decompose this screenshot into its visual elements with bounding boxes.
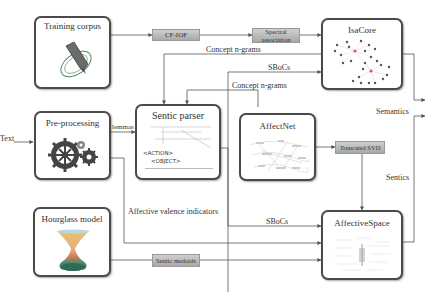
affectnet-title: AffectNet <box>241 121 314 131</box>
sentic-parser-title: Sentic parser <box>137 110 219 121</box>
preprocessing-box: Pre-processing <box>34 111 111 180</box>
edge-label-sentics: Sentics <box>386 173 409 182</box>
gears-icon <box>47 135 101 175</box>
truncated-svd-process: Truncated SVD <box>335 141 385 154</box>
vector-space-icon <box>331 234 395 274</box>
spectral-association-process: Spectral association <box>252 28 300 43</box>
edge-label-lemmas: lemmas <box>112 123 134 131</box>
pencil-orbit-icon <box>54 34 96 86</box>
cf-iof-process: CF-IOF <box>152 29 200 41</box>
edge-label-concept-ngrams-mid: Concept n-grams <box>232 81 287 90</box>
hourglass-model-box: Hourglass model <box>33 207 111 277</box>
training-corpus-title: Training corpus <box>36 21 109 31</box>
edge-label-affective-valence: Affective valence indicators <box>128 207 218 216</box>
cluster-graph-icon <box>331 39 395 87</box>
preprocessing-title: Pre-processing <box>36 118 109 128</box>
parse-tree-icon <box>141 124 217 148</box>
edge-label-semantics: Semantics <box>376 107 409 116</box>
training-corpus-box: Training corpus <box>34 16 111 89</box>
parse-underline <box>145 168 213 169</box>
edge-label-sbocs-bottom: SBoCs <box>266 217 288 226</box>
object-tag: <OBJECT> <box>151 158 181 164</box>
affectivespace-box: AffectiveSpace <box>321 210 403 280</box>
edge-label-text: Text <box>0 134 14 143</box>
isacore-box: IsaCore <box>321 18 403 90</box>
hourglass-model-title: Hourglass model <box>35 214 109 224</box>
hourglass-icon <box>55 229 91 273</box>
isacore-title: IsaCore <box>323 25 401 35</box>
affectivespace-title: AffectiveSpace <box>323 218 401 228</box>
edge-label-sbocs-top: SBoCs <box>268 63 290 72</box>
action-tag: <ACTION> <box>143 150 173 156</box>
affectnet-box: AffectNet <box>239 113 316 181</box>
sentic-parser-box: Sentic parser <ACTION> <OBJECT> <box>135 104 221 180</box>
edge-label-concept-ngrams-top: Concept n-grams <box>206 45 261 54</box>
semantic-network-icon <box>248 137 310 175</box>
sentic-medoids-process: Sentic medoids <box>152 254 200 267</box>
